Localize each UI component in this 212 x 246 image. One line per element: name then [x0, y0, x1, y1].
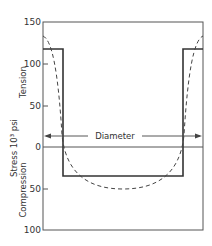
arrow-left-icon — [44, 134, 51, 139]
ytick-50-compression: 50 — [30, 184, 42, 194]
plot-frame — [43, 22, 203, 230]
ytick-50-tension: 50 — [30, 101, 42, 111]
ytick-0: 0 — [35, 142, 41, 152]
tension-label: Tension — [18, 66, 28, 99]
compression-label: Compression — [18, 162, 28, 217]
ytick-100-compression: 100 — [24, 225, 41, 235]
stress-chart: 150 100 50 0 50 100 Tension Stress 10³ p… — [0, 0, 212, 246]
dashed-stress-curve — [43, 36, 203, 189]
y-ticks — [43, 64, 48, 189]
arrow-right-icon — [195, 134, 202, 139]
ytick-150: 150 — [24, 17, 41, 27]
diameter-label: Diameter — [95, 131, 135, 141]
